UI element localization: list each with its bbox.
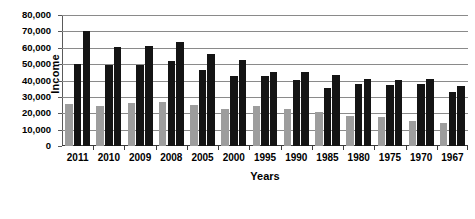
bar [221,109,229,146]
y-axis-tick-label: 80,000 [0,10,51,20]
bar [190,105,198,146]
bar-group [62,15,93,146]
bar-group [93,15,124,146]
bar [239,60,247,146]
x-axis-tick-label: 2010 [93,150,124,166]
bar [440,123,448,146]
y-axis-tick-label: 70,000 [0,27,51,37]
x-axis-tick-label: 2008 [156,150,187,166]
bar [65,104,73,146]
bar [395,80,403,146]
x-axis-tick-label: 1967 [437,150,468,166]
bar-group [312,15,343,146]
bar-group [249,15,280,146]
x-axis-tick-label: 1990 [281,150,312,166]
bar [261,76,269,146]
x-axis-tick-label: 2011 [62,150,93,166]
bar [168,61,176,146]
x-axis-tick-label: 2005 [187,150,218,166]
bar [449,92,457,146]
bar-group [343,15,374,146]
y-axis-tick-label: 30,000 [0,92,51,102]
bar [324,88,332,146]
bar [96,106,104,146]
bar [83,31,91,146]
bar [457,86,465,146]
bar [409,121,417,146]
bar-group [218,15,249,146]
bar [315,112,323,146]
bar-group [124,15,155,146]
bar [253,106,261,146]
y-axis-tick-label: 20,000 [0,109,51,119]
bar [128,103,136,146]
bar [284,109,292,146]
bar [364,79,372,146]
bar-group [374,15,405,146]
y-axis-tick-label: 50,000 [0,59,51,69]
bar [136,65,144,146]
x-axis-tick-label: 2000 [218,150,249,166]
y-axis-tick-label: 60,000 [0,43,51,53]
y-axis-tick-mark [58,146,62,147]
bar [355,84,363,146]
income-by-years-bar-chart: Income 010,00020,00030,00040,00050,00060… [0,0,475,219]
y-axis-tick-label: 10,000 [0,125,51,135]
bar-group [406,15,437,146]
bar [159,102,167,146]
bar [346,116,354,146]
bar [426,79,434,146]
bar [199,70,207,146]
bar [378,117,386,146]
bar-groups [62,15,468,146]
bar [301,72,309,146]
bar [270,72,278,147]
bar [417,84,425,146]
bar [114,47,122,146]
bar [332,75,340,146]
plot-area: 010,00020,00030,00040,00050,00060,00070,… [62,15,468,146]
bar-group [187,15,218,146]
x-axis-tick-label: 1995 [249,150,280,166]
y-axis-tick-label: 40,000 [0,76,51,86]
bar-group [281,15,312,146]
x-axis-tick-label: 1975 [374,150,405,166]
x-axis-tick-labels: 2011201020092008200520001995199019851980… [62,150,468,166]
x-axis-tick-label: 1970 [406,150,437,166]
bar [74,64,82,146]
bar [230,76,238,146]
y-axis-tick-label: 0 [0,141,51,151]
bar [386,85,394,146]
x-axis-tick-label: 1980 [343,150,374,166]
bar [176,42,184,146]
x-axis-tick-label: 2009 [124,150,155,166]
bar-group [156,15,187,146]
bar [105,65,113,146]
plot-inner: 010,00020,00030,00040,00050,00060,00070,… [62,15,468,146]
bar [293,80,301,146]
bar [207,54,215,146]
x-axis-title: Years [62,170,468,182]
bar-group [437,15,468,146]
x-axis-tick-label: 1985 [312,150,343,166]
bar [145,46,153,146]
